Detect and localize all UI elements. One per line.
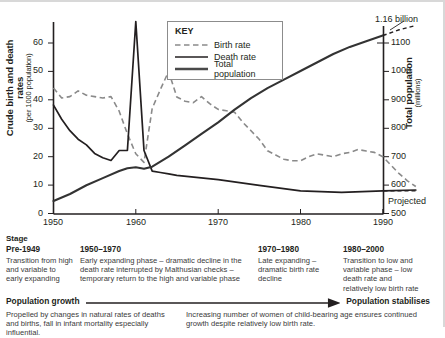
chart: Crude birth and death rates (per 1000 po… (0, 4, 433, 236)
x-tick-label-1970: 1970 (198, 217, 238, 227)
stage-period: 1950–1970 (80, 245, 252, 254)
footnote-stabilise: Increasing number of women of child-bear… (186, 310, 426, 338)
arrow-right-label: Population stabilises (346, 296, 430, 306)
stage-column-pre-1949: Pre-1949 Transition from high and variab… (6, 245, 80, 293)
stage-period: Pre-1949 (6, 245, 74, 254)
legend-swatch-dashed-icon (175, 40, 208, 50)
footnote-growth: Propelled by changes in natural rates of… (6, 310, 186, 338)
summary-footnotes: Propelled by changes in natural rates of… (6, 310, 430, 338)
stage-heading: Stage (6, 234, 28, 243)
left-tick-label-20: 20 (21, 151, 43, 161)
x-tick-label-1990: 1990 (363, 217, 403, 227)
stage-description: Transition from high and variable to ear… (6, 256, 74, 284)
left-tick-label-60: 60 (21, 37, 43, 47)
right-tick-label-600: 600 (391, 179, 406, 189)
stage-description: Transition to low and variable phase – l… (343, 256, 424, 293)
legend-label-birth-rate: Birth rate (208, 40, 251, 50)
arrow-left-label: Population growth (6, 296, 80, 306)
right-tick-label-700: 700 (391, 151, 406, 161)
stage-description: Late expanding – dramatic birth rate dec… (258, 256, 337, 284)
legend-title: KEY (175, 26, 276, 36)
chart-legend: KEY Birth rate Death rate Total populati… (167, 21, 283, 80)
x-tick-label-1980: 1980 (281, 217, 321, 227)
right-axis-title: Total population (millions) (404, 43, 422, 143)
left-tick-label-40: 40 (21, 94, 43, 104)
left-tick-label-30: 30 (21, 122, 43, 132)
series-total-population-projected (383, 26, 416, 36)
stage-description: Early expanding phase – dramatic decline… (80, 256, 252, 284)
summary-arrow-band: Population growth Population stabilises (6, 294, 430, 308)
right-arrow-icon (86, 295, 341, 307)
left-tick-label-10: 10 (21, 179, 43, 189)
stage-period: 1980–2000 (343, 245, 424, 254)
left-axis-ticks (48, 43, 54, 214)
legend-item-total-population: Total population (175, 63, 276, 75)
stage-column-1980-2000: 1980–2000 Transition to low and variable… (343, 245, 430, 293)
right-tick-label-1100: 1100 (391, 37, 410, 47)
legend-item-birth-rate: Birth rate (175, 39, 276, 51)
stage-column-1950-1970: 1950–1970 Early expanding phase – dramat… (80, 245, 258, 293)
x-tick-label-1960: 1960 (116, 217, 156, 227)
stage-column-1970-1980: 1970–1980 Late expanding – dramatic birt… (258, 245, 343, 293)
stage-period: 1970–1980 (258, 245, 337, 254)
peak-population-callout: 1.16 billion (375, 14, 418, 24)
left-tick-label-50: 50 (21, 65, 43, 75)
stage-row: Pre-1949 Transition from high and variab… (6, 245, 430, 293)
x-tick-label-1950: 1950 (33, 217, 73, 227)
series-birth-rate (54, 71, 416, 186)
legend-swatch-solid-icon (175, 52, 208, 62)
legend-label-total-population: Total population (208, 59, 276, 79)
right-tick-label-900: 900 (391, 94, 406, 104)
right-axis-subtitle: (millions) (414, 43, 422, 143)
legend-swatch-thick-icon (175, 64, 208, 74)
projected-callout: Projected (388, 196, 426, 206)
right-tick-label-1000: 1000 (391, 65, 411, 75)
right-tick-label-800: 800 (391, 122, 406, 132)
